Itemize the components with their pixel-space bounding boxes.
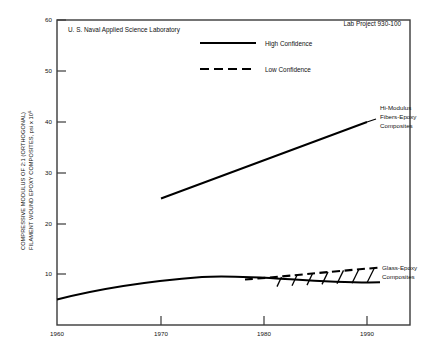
y-tick-label-60: 60: [45, 16, 52, 23]
y-axis-title-line2: FILAMENT WOUND EPOXY COMPOSITES, psi x 1…: [27, 110, 34, 250]
y-tick-label-30: 30: [45, 169, 52, 176]
legend-label-high-confidence: High Confidence: [265, 40, 313, 48]
y-axis-title: COMPRESSIVE MODULUS OF 2:1 (ORTHOGONAL) …: [20, 110, 34, 250]
y-axis-title-line1: COMPRESSIVE MODULUS OF 2:1 (ORTHOGONAL): [20, 112, 26, 250]
chart-svg: 60 50 40 30 20 10 1960 1970 1980 1990 CO…: [0, 0, 439, 358]
legend-label-low-confidence: Low Confidence: [265, 66, 311, 73]
annotation-hi-modulus-line1: Hi-Modulus: [380, 104, 411, 111]
y-tick-label-40: 40: [45, 118, 52, 125]
chart-figure: 60 50 40 30 20 10 1960 1970 1980 1990 CO…: [0, 0, 439, 358]
header-left-label: U. S. Naval Applied Science Laboratory: [68, 26, 181, 34]
annotation-hi-modulus: Hi-Modulus Fibers-Epoxy Composites: [380, 104, 417, 129]
header-right-label: Lab Project 930-100: [343, 20, 401, 28]
annotation-hi-modulus-line2: Fibers-Epoxy: [380, 113, 417, 120]
annotation-glass-epoxy-line1: Glass-Epoxy: [382, 264, 418, 271]
annotation-glass-epoxy-line2: Composites: [382, 273, 415, 280]
x-tick-label-1960: 1960: [50, 330, 64, 337]
y-tick-label-10: 10: [45, 270, 52, 277]
x-tick-label-1980: 1980: [257, 330, 271, 337]
x-tick-label-1990: 1990: [360, 330, 374, 337]
annotation-hi-modulus-line3: Composites: [380, 122, 413, 129]
y-tick-label-50: 50: [45, 67, 52, 74]
y-tick-label-20: 20: [45, 220, 52, 227]
x-tick-label-1970: 1970: [154, 330, 168, 337]
